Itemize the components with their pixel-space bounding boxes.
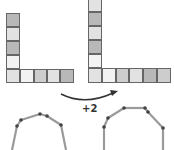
chain-rod xyxy=(108,108,124,118)
chain-joint xyxy=(45,114,49,118)
chain-joint xyxy=(106,116,110,120)
arrowhead-icon xyxy=(110,90,118,96)
chain-joint xyxy=(161,126,165,130)
connectors-layer xyxy=(0,0,174,150)
chain-joint xyxy=(59,123,63,127)
chain-rod xyxy=(47,116,61,125)
transform-arrow-icon xyxy=(61,93,113,100)
chain-joint xyxy=(122,106,126,110)
chain-rod xyxy=(61,125,66,150)
chain-joint xyxy=(143,106,147,110)
chain-joint xyxy=(102,125,106,129)
chain-rod xyxy=(21,114,40,120)
increment-label: +2 xyxy=(82,103,97,114)
chain-joint xyxy=(38,112,42,116)
chain-joint xyxy=(15,124,19,128)
chain-joint xyxy=(19,118,23,122)
chain-rod xyxy=(12,126,17,150)
chain-rod xyxy=(148,112,163,128)
chain-joint xyxy=(146,110,150,114)
